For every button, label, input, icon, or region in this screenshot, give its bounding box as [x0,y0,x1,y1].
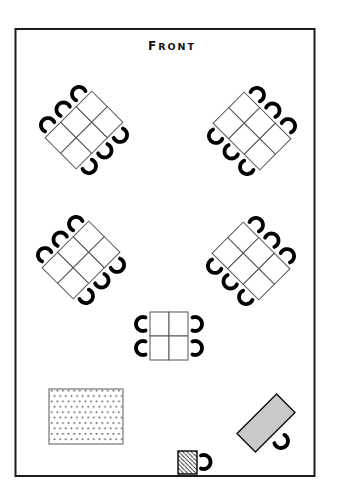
dining-table-middle-right [202,212,300,310]
dining-table-top-left [35,81,133,179]
chair-icon [192,341,202,355]
front-label: FRONT [148,39,196,53]
table-cell [169,312,188,336]
chair-icon [192,317,202,331]
dining-table-top-right [203,82,301,180]
chair-icon [79,289,96,306]
chair-icon [35,245,52,262]
chair-icon [237,160,254,177]
chair-icon [221,275,238,292]
chair-at-hatched-stand [201,455,211,469]
chair-icon [136,341,146,355]
floor-plan-page: FRONT [0,0,338,497]
table-cell [150,336,169,360]
floor-plan-diagram: FRONT [0,0,338,497]
chair-icon [249,215,266,232]
chair-icon [69,84,86,101]
chair-icon [110,258,127,275]
table-cell [150,312,169,336]
table-cell [169,336,188,360]
chair-icon [51,230,68,247]
chair-icon [136,317,146,331]
chair-icon [265,231,282,248]
chair-icon [66,214,83,231]
chair-icon [205,259,222,276]
chair-icon [281,116,298,133]
chair-icon [113,128,130,145]
dotted-rug [49,389,123,444]
chair-icon [98,144,115,161]
dining-table-center [136,312,202,360]
dining-table-middle-left [32,211,130,309]
chair-icon [38,115,55,132]
chair-icon [236,290,253,307]
chair-icon [280,246,297,263]
chair-at-gray-table [274,435,288,448]
chair-icon [266,101,283,118]
chair-icon [201,455,211,469]
hatched-stand [178,451,197,474]
chair-icon [250,85,267,102]
chair-icon [274,435,288,448]
chair-icon [206,129,223,146]
chair-icon [95,274,112,291]
chair-icon [82,159,99,176]
furniture-layer [49,389,295,474]
tables-layer [32,81,301,360]
chair-icon [54,100,71,117]
chair-icon [222,145,239,162]
